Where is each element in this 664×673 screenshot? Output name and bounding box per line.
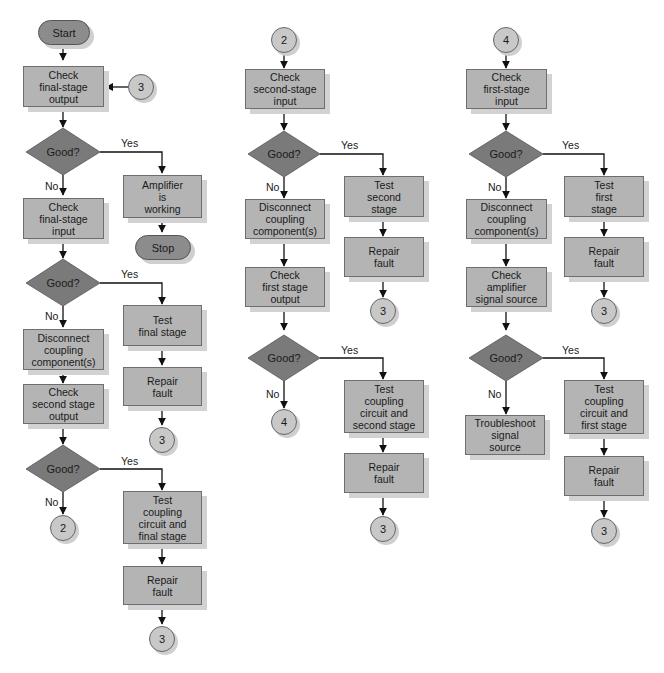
connector-4-out: 4 bbox=[271, 409, 297, 435]
connector-3: 3 bbox=[149, 626, 175, 652]
check-final-stage-input-box: Check final-stage input bbox=[23, 198, 104, 239]
no-label: No bbox=[266, 181, 279, 193]
test-first-stage-box: Test first stage bbox=[564, 176, 644, 217]
check-second-stage-input-box: Check second-stage input bbox=[245, 69, 325, 109]
connector-3: 3 bbox=[370, 298, 396, 324]
amplifier-working-box: Amplifier is working bbox=[123, 175, 202, 218]
disconnect-coupling-box: Disconnect coupling component(s) bbox=[23, 329, 104, 370]
disconnect-coupling-box: Disconnect coupling component(s) bbox=[466, 199, 547, 239]
stop-terminal: Stop bbox=[135, 235, 191, 260]
test-final-stage-box: Test final stage bbox=[123, 305, 202, 346]
decision-label: Good? bbox=[33, 146, 93, 158]
disconnect-coupling-box: Disconnect coupling component(s) bbox=[245, 199, 325, 239]
decision-label: Good? bbox=[476, 352, 536, 364]
decision-label: Good? bbox=[254, 352, 314, 364]
no-label: No bbox=[45, 496, 58, 508]
decision-label: Good? bbox=[254, 148, 314, 160]
repair-fault-box: Repair fault bbox=[564, 456, 644, 496]
check-second-stage-output-box: Check second stage output bbox=[23, 384, 104, 424]
no-label: No bbox=[45, 180, 58, 192]
check-first-stage-input-box: Check first-stage input bbox=[466, 69, 547, 109]
no-label: No bbox=[488, 388, 501, 400]
connector-2-out: 2 bbox=[50, 515, 76, 541]
connector-3-in: 3 bbox=[128, 74, 154, 100]
connector-2-in: 2 bbox=[271, 27, 297, 53]
test-second-stage-box: Test second stage bbox=[344, 176, 424, 217]
decision-label: Good? bbox=[476, 148, 536, 160]
repair-fault-box: Repair fault bbox=[344, 453, 424, 493]
troubleshoot-signal-source-box: Troubleshoot signal source bbox=[465, 415, 545, 455]
yes-label: Yes bbox=[121, 137, 138, 149]
no-label: No bbox=[45, 310, 58, 322]
connector-3: 3 bbox=[591, 518, 617, 544]
repair-fault-box: Repair fault bbox=[123, 367, 202, 406]
yes-label: Yes bbox=[121, 455, 138, 467]
yes-label: Yes bbox=[121, 268, 138, 280]
check-final-stage-output-box: Check final-stage output bbox=[23, 66, 104, 107]
decision-label: Good? bbox=[33, 277, 93, 289]
start-terminal: Start bbox=[38, 20, 90, 45]
test-coupling-final-stage-box: Test coupling circuit and final stage bbox=[123, 491, 202, 544]
connector-3: 3 bbox=[591, 298, 617, 324]
connector-3: 3 bbox=[149, 427, 175, 453]
yes-label: Yes bbox=[562, 139, 579, 151]
decision-label: Good? bbox=[33, 463, 93, 475]
connector-4-in: 4 bbox=[493, 27, 519, 53]
connector-3: 3 bbox=[370, 516, 396, 542]
repair-fault-box: Repair fault bbox=[123, 566, 202, 605]
test-coupling-first-stage-box: Test coupling circuit and first stage bbox=[564, 380, 644, 434]
check-first-stage-output-box: Check first stage output bbox=[245, 267, 325, 307]
repair-fault-box: Repair fault bbox=[564, 237, 644, 277]
check-amplifier-signal-source-box: Check amplifier signal source bbox=[466, 267, 547, 307]
no-label: No bbox=[266, 388, 279, 400]
yes-label: Yes bbox=[562, 344, 579, 356]
yes-label: Yes bbox=[341, 344, 358, 356]
yes-label: Yes bbox=[341, 139, 358, 151]
repair-fault-box: Repair fault bbox=[344, 237, 424, 277]
no-label: No bbox=[488, 181, 501, 193]
test-coupling-second-stage-box: Test coupling circuit and second stage bbox=[344, 380, 424, 433]
